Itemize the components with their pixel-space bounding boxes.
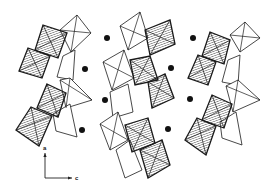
- cation-dot: [82, 66, 88, 72]
- axis-indicator: [43, 153, 72, 180]
- axis-c-arrowhead-icon: [68, 176, 72, 179]
- crystal-structure-figure: [0, 0, 275, 195]
- cation-dot: [104, 35, 110, 41]
- octahedral-chains: [16, 12, 260, 178]
- axis-label-a: a: [43, 145, 46, 151]
- cation-dot: [190, 35, 196, 41]
- hatched-octahedron: [16, 107, 52, 146]
- cation-dot: [79, 127, 85, 133]
- center-chain: [100, 12, 175, 178]
- axis-a-arrowhead-icon: [43, 153, 46, 157]
- cation-dot: [102, 97, 108, 103]
- cation-dot: [168, 65, 174, 71]
- open-octahedron: [230, 22, 260, 52]
- cation-dot: [187, 96, 193, 102]
- hatched-octahedron: [185, 118, 216, 155]
- axis-label-c: c: [75, 175, 78, 181]
- right-chain: [185, 22, 260, 155]
- cation-dot: [165, 126, 171, 132]
- left-chain: [16, 15, 92, 146]
